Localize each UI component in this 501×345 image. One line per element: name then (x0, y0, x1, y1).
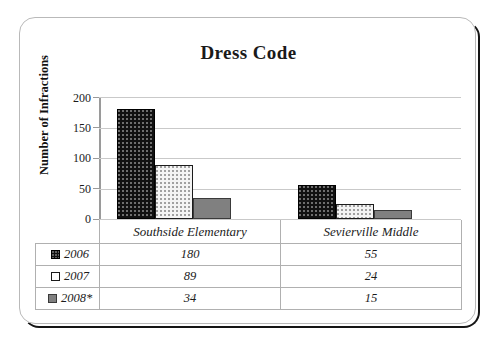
bar-sevierville-2006 (298, 185, 336, 219)
cell-2006-southside: 180 (100, 244, 281, 266)
table-corner-cell (36, 220, 100, 244)
bar-southside-2008 (193, 198, 231, 219)
y-tick-label-50: 50 (51, 182, 91, 197)
legend-swatch-icon-2008 (48, 294, 57, 303)
table-row: 2006 180 55 (36, 244, 462, 266)
table-row: 2007 89 24 (36, 266, 462, 288)
table-header-row: Southside Elementary Sevierville Middle (36, 220, 462, 244)
y-tick-label-100: 100 (51, 151, 91, 166)
legend-label-2008: 2008* (61, 291, 92, 305)
legend-label-2007: 2007 (64, 269, 89, 283)
cell-2008-sevierville: 15 (281, 288, 462, 310)
column-header-southside: Southside Elementary (100, 220, 281, 244)
legend-swatch-icon-2007 (51, 272, 60, 281)
legend-item-2007[interactable]: 2007 (36, 266, 100, 288)
data-table: Southside Elementary Sevierville Middle … (35, 220, 462, 310)
gridline-200 (99, 97, 461, 98)
chart-card: Dress Code Number of Infractions 200 150… (19, 17, 476, 324)
legend-item-2006[interactable]: 2006 (36, 244, 100, 266)
cell-2006-sevierville: 55 (281, 244, 462, 266)
column-header-sevierville: Sevierville Middle (281, 220, 462, 244)
y-tick-label-150: 150 (51, 121, 91, 136)
bar-southside-2006 (117, 109, 155, 219)
cell-2008-southside: 34 (100, 288, 281, 310)
legend-item-2008[interactable]: 2008* (36, 288, 100, 310)
legend-label-2006: 2006 (64, 247, 89, 261)
bar-sevierville-2007 (336, 204, 374, 219)
bar-southside-2007 (155, 165, 193, 219)
cell-2007-sevierville: 24 (281, 266, 462, 288)
table-row: 2008* 34 15 (36, 288, 462, 310)
legend-swatch-icon-2006 (51, 250, 60, 259)
plot-area (99, 97, 461, 219)
y-tick-label-200: 200 (51, 91, 91, 106)
bar-sevierville-2008 (374, 210, 412, 219)
cell-2007-southside: 89 (100, 266, 281, 288)
